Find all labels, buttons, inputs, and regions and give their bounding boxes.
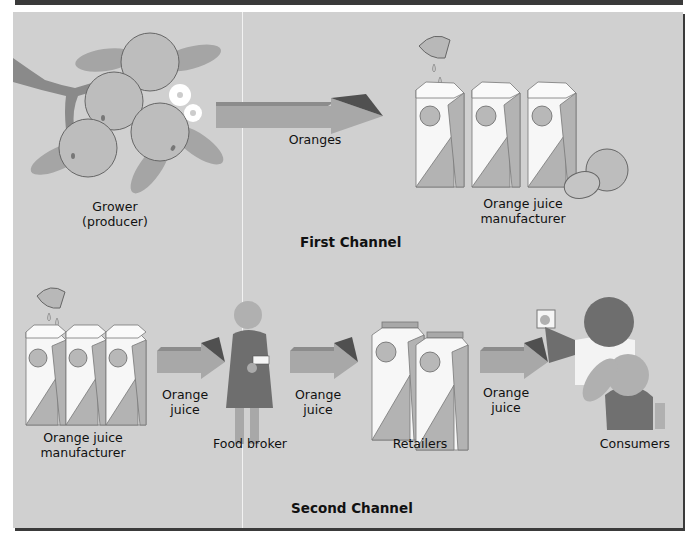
arrow-3-line2: juice bbox=[476, 400, 536, 415]
juice-cartons-icon-2 bbox=[22, 280, 152, 430]
arrow-3-line1: Orange bbox=[476, 385, 536, 400]
arrow-2-line1: Orange bbox=[288, 387, 348, 402]
arrow-1-line2: juice bbox=[155, 402, 215, 417]
oj-manufacturer-2-line1: Orange juice bbox=[28, 430, 138, 445]
node-label-consumers: Consumers bbox=[590, 436, 680, 451]
node-label-food-broker: Food broker bbox=[205, 436, 295, 451]
node-label-retailers: Retailers bbox=[380, 436, 460, 451]
node-label-oj-manufacturer-2: Orange juice manufacturer bbox=[28, 430, 138, 460]
oj-manufacturer-1-line2: manufacturer bbox=[468, 211, 578, 226]
arrow-label-oranges: Oranges bbox=[270, 132, 360, 147]
oj-manufacturer-1-line1: Orange juice bbox=[468, 196, 578, 211]
juice-cartons-icon bbox=[412, 30, 672, 200]
first-channel-title: First Channel bbox=[300, 234, 401, 250]
food-broker-icon bbox=[228, 290, 288, 460]
arrow-2-line2: juice bbox=[288, 402, 348, 417]
arrow-label-juice-1: Orange juice bbox=[155, 387, 215, 417]
consumers-icon bbox=[535, 285, 675, 425]
retailers-cartons-icon bbox=[370, 320, 480, 450]
second-channel-title: Second Channel bbox=[291, 500, 413, 516]
oj-manufacturer-2-line2: manufacturer bbox=[28, 445, 138, 460]
grower-label-line2: (producer) bbox=[70, 214, 160, 229]
arrow-label-juice-2: Orange juice bbox=[288, 387, 348, 417]
arrow-juice-2-icon bbox=[290, 345, 370, 385]
arrow-juice-1-icon bbox=[157, 345, 237, 385]
node-label-oj-manufacturer-1: Orange juice manufacturer bbox=[468, 196, 578, 226]
grower-label-line1: Grower bbox=[70, 199, 160, 214]
node-label-grower: Grower (producer) bbox=[70, 199, 160, 229]
arrow-label-juice-3: Orange juice bbox=[476, 385, 536, 415]
arrow-1-line1: Orange bbox=[155, 387, 215, 402]
